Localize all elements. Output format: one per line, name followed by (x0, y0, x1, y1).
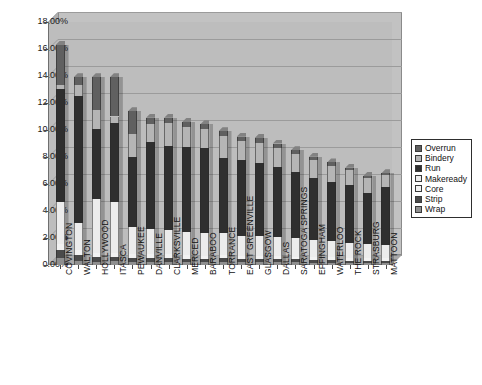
bar-segment-bindery[interactable] (345, 170, 354, 185)
bar-side-face (119, 77, 123, 265)
bar-segment-overrun[interactable] (164, 118, 173, 123)
bar-segment-overrun[interactable] (92, 77, 101, 109)
bar-top-face (255, 134, 264, 138)
bar-segment-run[interactable] (273, 167, 282, 237)
legend-item-wrap[interactable]: Wrap (415, 204, 467, 214)
x-axis-tick-mark (78, 265, 79, 269)
bar-top-face (164, 114, 173, 118)
bar-segment-overrun[interactable] (255, 138, 264, 142)
bar-column[interactable] (110, 22, 119, 265)
legend-swatch-icon (415, 155, 422, 162)
bar-segment-bindery[interactable] (56, 85, 65, 89)
bar-segment-overrun[interactable] (363, 176, 372, 178)
bar-segment-overrun[interactable] (182, 122, 191, 127)
legend-swatch-icon (415, 175, 422, 182)
bar-column[interactable] (255, 22, 264, 265)
bar-column[interactable] (182, 22, 191, 265)
bar-segment-bindery[interactable] (363, 178, 372, 193)
legend-item-label: Wrap (425, 204, 445, 214)
bar-segment-bindery[interactable] (182, 127, 191, 147)
bar-segment-overrun[interactable] (128, 111, 137, 133)
bar-segment-overrun[interactable] (327, 162, 336, 165)
bars-layer (0, 0, 482, 385)
x-axis-tick-mark (332, 265, 333, 269)
bar-segment-overrun[interactable] (110, 77, 119, 116)
x-axis-tick-mark (151, 265, 152, 269)
bar-column[interactable] (74, 22, 83, 265)
x-axis-category-label: MERCED (190, 238, 200, 275)
bar-segment-run[interactable] (56, 89, 65, 202)
bar-segment-overrun[interactable] (146, 118, 155, 124)
x-axis-tick-mark (350, 265, 351, 269)
legend-item-core[interactable]: Core (415, 184, 467, 194)
bar-segment-overrun[interactable] (291, 150, 300, 154)
legend-item-overrun[interactable]: Overrun (415, 143, 467, 153)
x-axis-tick-mark (241, 265, 242, 269)
bar-top-face (146, 114, 155, 118)
bar-segment-run[interactable] (219, 158, 228, 234)
bar-top-face (92, 73, 101, 77)
bar-segment-overrun[interactable] (309, 157, 318, 160)
bar-segment-bindery[interactable] (273, 148, 282, 167)
bar-segment-overrun[interactable] (219, 131, 228, 136)
bar-segment-bindery[interactable] (291, 154, 300, 172)
legend-item-bindery[interactable]: Bindery (415, 153, 467, 163)
x-axis-category-label: THE ROCK (353, 230, 363, 275)
bar-segment-run[interactable] (92, 129, 101, 199)
bar-segment-run[interactable] (74, 96, 83, 223)
bar-segment-bindery[interactable] (237, 141, 246, 160)
bar-segment-bindery[interactable] (200, 129, 209, 148)
bar-segment-bindery[interactable] (309, 160, 318, 178)
x-axis-category-label: SARATOGA SPRINGS (299, 187, 309, 275)
bar-top-face (273, 140, 282, 144)
bar-segment-bindery[interactable] (381, 175, 390, 187)
bar-segment-bindery[interactable] (92, 110, 101, 129)
bar-segment-overrun[interactable] (273, 144, 282, 148)
bar-segment-run[interactable] (200, 148, 209, 233)
legend-item-label: Core (425, 184, 443, 194)
bar-segment-run[interactable] (146, 142, 155, 228)
bar-top-face (327, 158, 336, 162)
bar-column[interactable] (273, 22, 282, 265)
bar-segment-bindery[interactable] (74, 85, 83, 96)
x-axis-tick-mark (386, 265, 387, 269)
bar-segment-bindery[interactable] (327, 166, 336, 182)
bar-segment-bindery[interactable] (164, 123, 173, 146)
legend-swatch-icon (415, 185, 422, 192)
bar-top-face (345, 164, 354, 168)
bar-segment-run[interactable] (182, 147, 191, 232)
x-axis-category-label: STRASBURG (371, 221, 381, 275)
legend-item-label: Overrun (425, 143, 456, 153)
bar-top-face (237, 133, 246, 137)
x-axis-category-label: ITASCA (118, 244, 128, 275)
bar-segment-bindery[interactable] (128, 134, 137, 157)
bar-segment-run[interactable] (128, 157, 137, 227)
bar-segment-overrun[interactable] (237, 137, 246, 141)
legend-item-run[interactable]: Run (415, 163, 467, 173)
bar-segment-overrun[interactable] (56, 45, 65, 85)
bar-column[interactable] (381, 22, 390, 265)
legend-item-makeready[interactable]: Makeready (415, 174, 467, 184)
legend-swatch-icon (415, 165, 422, 172)
bar-segment-overrun[interactable] (74, 77, 83, 85)
x-axis-category-label: DALLAS (281, 242, 291, 275)
bar-top-face (56, 41, 65, 45)
bar-segment-bindery[interactable] (110, 117, 119, 124)
bar-segment-run[interactable] (255, 163, 264, 236)
legend-item-strip[interactable]: Strip (415, 194, 467, 204)
bar-segment-run[interactable] (110, 123, 119, 201)
bar-column[interactable] (200, 22, 209, 265)
x-axis-tick-mark (132, 265, 133, 269)
bar-segment-overrun[interactable] (200, 124, 209, 128)
legend-swatch-icon (415, 196, 422, 203)
bar-segment-overrun[interactable] (381, 173, 390, 174)
chart-legend: OverrunBinderyRunMakereadyCoreStripWrap (411, 139, 472, 218)
bar-segment-bindery[interactable] (146, 124, 155, 143)
x-axis-category-label: BARABOO (208, 232, 218, 275)
bar-segment-bindery[interactable] (219, 136, 228, 158)
bar-segment-bindery[interactable] (255, 143, 264, 163)
bar-column[interactable] (345, 22, 354, 265)
legend-item-label: Bindery (425, 153, 454, 163)
bar-segment-overrun[interactable] (345, 168, 354, 171)
bar-column[interactable] (146, 22, 155, 265)
